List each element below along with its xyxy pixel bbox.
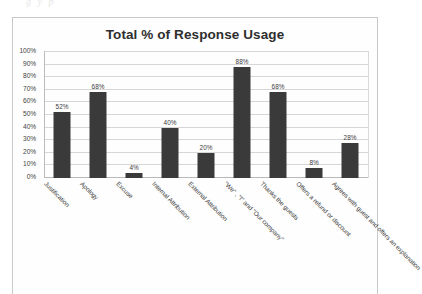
bar[interactable] [234,67,251,178]
bar-group: 28% [332,52,368,178]
bar-group: 88% [224,52,260,178]
x-axis-category-label: Justification [43,180,71,208]
y-axis-tick-label: 80% [6,72,36,79]
scan-top-artifact: g y p [0,0,387,10]
y-axis-tick-label: 90% [6,60,36,67]
bar-group: 20% [188,52,224,178]
bar[interactable] [90,92,107,178]
x-axis-category-label: Thanks the guests [259,180,300,221]
bar[interactable] [126,173,143,178]
bar-group: 40% [152,52,188,178]
bar[interactable] [198,153,215,178]
bar[interactable] [270,92,287,178]
y-axis-tick-label: 10% [6,160,36,167]
bar-value-label: 52% [56,103,69,110]
bar-value-label: 88% [236,58,249,65]
bar-group: 8% [296,52,332,178]
bar-value-label: 68% [272,83,285,90]
y-axis-tick-label: 40% [6,123,36,130]
bars-layer: 52%68%4%40%20%88%68%8%28% [44,51,368,178]
plot-right-border [368,51,369,178]
bar-value-label: 40% [164,119,177,126]
chart-title: Total % of Response Usage [12,27,378,42]
x-axis-category-labels: JustificationApologyExcuseInternal Attri… [44,180,387,294]
bar-value-label: 20% [200,144,213,151]
bar-value-label: 68% [92,83,105,90]
bar-value-label: 4% [129,164,138,171]
bar[interactable] [306,168,323,178]
x-axis-category-label: "We" , "I" and "Our company" [223,180,285,242]
x-axis-category-label: External Attribution [187,180,229,222]
bar-group: 68% [260,52,296,178]
bar[interactable] [342,143,359,178]
x-axis-category-label: Apology [79,180,100,201]
bar-value-label: 8% [309,159,318,166]
y-axis-tick-label: 50% [6,110,36,117]
y-axis-tick-label: 20% [6,148,36,155]
y-axis-tick-label: 100% [6,47,36,54]
bar-group: 4% [116,52,152,178]
bar-group: 52% [44,52,80,178]
bar[interactable] [54,112,71,178]
y-axis-tick-label: 0% [6,173,36,180]
bar-group: 68% [80,52,116,178]
x-axis-category-label: Internal Attribution [151,180,192,221]
y-axis-tick-label: 30% [6,135,36,142]
bar-value-label: 28% [344,134,357,141]
y-axis-tick-label: 60% [6,97,36,104]
y-axis-tick-label: 70% [6,85,36,92]
bar[interactable] [162,128,179,178]
x-axis-category-label: Excuse [115,180,135,200]
